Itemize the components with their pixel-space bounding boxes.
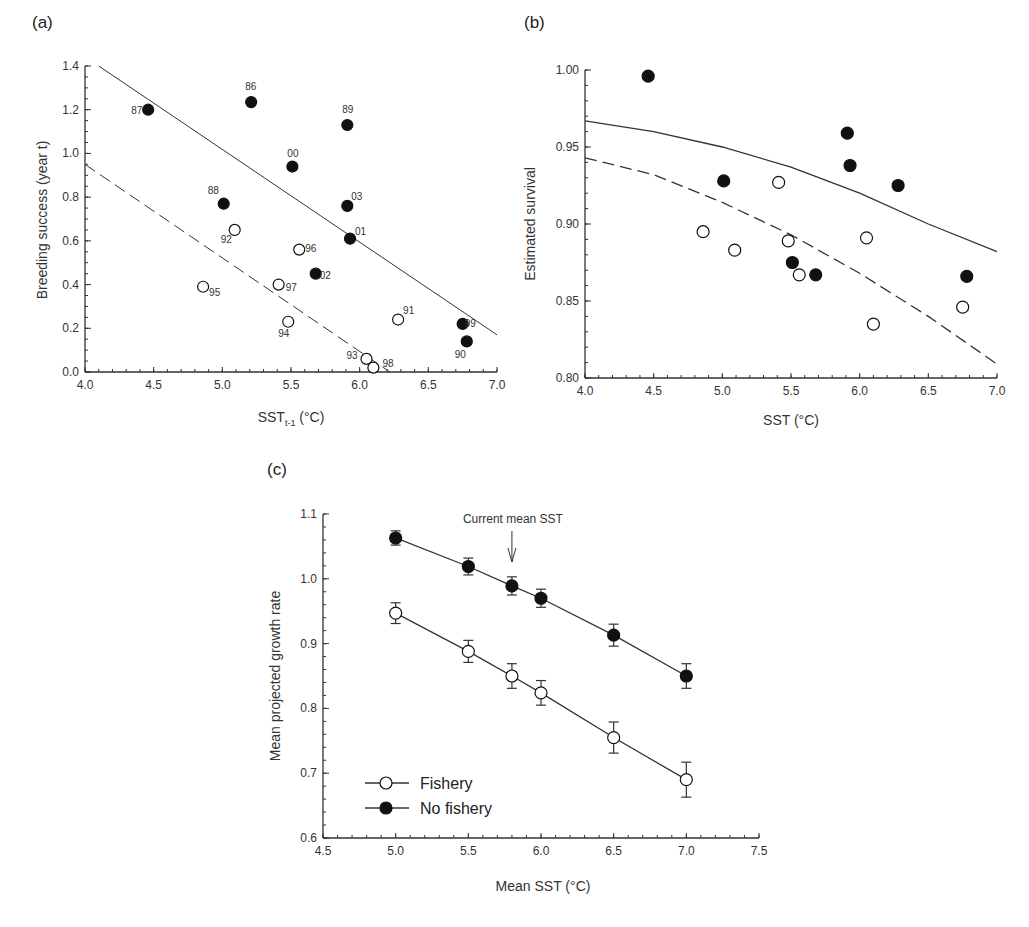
y-axis-title: Estimated survival (522, 167, 538, 281)
y-tick-label: 1.0 (62, 146, 79, 160)
open-data-point (368, 362, 379, 373)
x-tick-label: 5.5 (783, 384, 800, 398)
filled-data-point (143, 104, 154, 115)
filled-data-point (390, 532, 402, 544)
point-year-label: 03 (351, 191, 363, 202)
chart-panel-c: 4.55.05.56.06.57.07.50.60.70.80.91.01.1C… (267, 507, 768, 894)
y-tick-label: 1.2 (62, 103, 79, 117)
filled-data-point (810, 269, 822, 281)
filled-data-point (718, 175, 730, 187)
y-tick-label: 1.0 (300, 572, 317, 586)
filled-data-point (608, 629, 620, 641)
x-tick-label: 5.5 (283, 378, 300, 392)
point-year-label: 02 (320, 270, 332, 281)
open-data-point (773, 176, 785, 188)
point-year-label: 91 (403, 305, 415, 316)
x-tick-label: 6.0 (851, 384, 868, 398)
y-tick-label: 0.9 (300, 637, 317, 651)
y-tick-label: 0.80 (556, 371, 580, 385)
y-tick-label: 0.0 (62, 365, 79, 379)
open-data-point (697, 226, 709, 238)
x-axis-title: Mean SST (°C) (496, 878, 591, 894)
legend-label: No fishery (420, 800, 492, 817)
annotation-current-mean-sst: Current mean SST (463, 512, 564, 526)
x-tick-label: 6.0 (533, 844, 550, 858)
filled-data-point (961, 270, 973, 282)
open-data-point (680, 774, 692, 786)
point-year-label: 87 (131, 105, 143, 116)
filled-data-point (342, 120, 353, 131)
x-tick-label: 6.5 (605, 844, 622, 858)
x-tick-label: 5.5 (460, 844, 477, 858)
filled-data-point (380, 802, 392, 814)
y-tick-label: 0.6 (300, 831, 317, 845)
point-year-label: 94 (278, 328, 290, 339)
y-tick-label: 0.90 (556, 217, 580, 231)
x-tick-label: 4.0 (77, 378, 94, 392)
x-tick-label: 7.5 (751, 844, 768, 858)
open-data-point (283, 316, 294, 327)
filled-data-point (844, 159, 856, 171)
y-tick-label: 0.7 (300, 766, 317, 780)
open-data-point (793, 269, 805, 281)
y-tick-label: 0.2 (62, 321, 79, 335)
filled-data-point (342, 200, 353, 211)
fit-line-dashed (85, 164, 390, 372)
point-year-label: 01 (355, 226, 367, 237)
filled-data-point (642, 70, 654, 82)
x-tick-label: 7.0 (678, 844, 695, 858)
open-data-point (861, 232, 873, 244)
filled-data-point (246, 97, 257, 108)
y-tick-label: 1.4 (62, 59, 79, 73)
x-tick-label: 6.5 (420, 378, 437, 392)
open-data-point (393, 314, 404, 325)
filled-data-point (786, 257, 798, 269)
filled-data-point (680, 670, 692, 682)
open-data-point (729, 244, 741, 256)
point-year-label: 89 (342, 104, 354, 115)
filled-data-point (287, 161, 298, 172)
point-year-label: 86 (245, 81, 257, 92)
x-tick-label: 5.0 (214, 378, 231, 392)
open-data-point (380, 777, 392, 789)
point-year-label: 93 (347, 350, 359, 361)
x-tick-label: 7.0 (989, 384, 1006, 398)
y-tick-label: 0.6 (62, 234, 79, 248)
legend-label: Fishery (420, 775, 472, 792)
x-tick-label: 6.0 (351, 378, 368, 392)
open-data-point (867, 318, 879, 330)
y-tick-label: 1.00 (556, 63, 580, 77)
point-year-label: 99 (465, 318, 477, 329)
open-data-point (506, 670, 518, 682)
x-tick-label: 4.5 (315, 844, 332, 858)
fit-line-solid (99, 66, 497, 335)
filled-data-point (345, 233, 356, 244)
chart-panel-b: 4.04.55.05.56.06.57.00.800.850.900.951.0… (522, 63, 1006, 428)
point-year-label: 92 (221, 234, 233, 245)
filled-data-point (535, 592, 547, 604)
open-data-point (294, 244, 305, 255)
filled-data-point (506, 580, 518, 592)
filled-data-point (461, 336, 472, 347)
y-axis-title: Breeding success (year t) (34, 141, 50, 300)
filled-data-point (462, 560, 474, 572)
point-year-label: 95 (209, 287, 221, 298)
x-axis-title: SSTt-1 (°C) (258, 409, 325, 428)
point-year-label: 90 (455, 349, 467, 360)
open-data-point (390, 607, 402, 619)
x-tick-label: 6.5 (920, 384, 937, 398)
fit-curve-solid (585, 121, 997, 252)
filled-data-point (841, 127, 853, 139)
y-tick-label: 0.4 (62, 278, 79, 292)
x-tick-label: 5.0 (714, 384, 731, 398)
point-year-label: 88 (208, 185, 220, 196)
filled-data-point (892, 180, 904, 192)
open-data-point (198, 281, 209, 292)
open-data-point (273, 279, 284, 290)
open-data-point (782, 235, 794, 247)
y-axis-title: Mean projected growth rate (267, 591, 283, 762)
open-data-point (462, 645, 474, 657)
point-year-label: 00 (287, 148, 299, 159)
y-tick-label: 0.8 (62, 190, 79, 204)
chart-panel-a: 4.04.55.05.56.06.57.00.00.20.40.60.81.01… (34, 59, 506, 428)
